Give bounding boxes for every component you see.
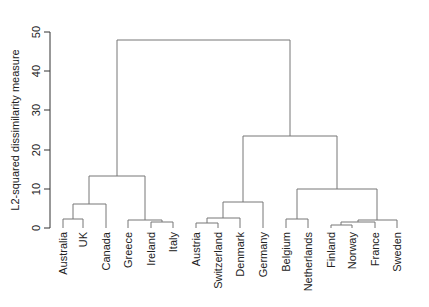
leaf-label-ireland: Ireland [145,232,157,266]
y-tick-20: 20 [30,144,42,156]
y-tick-30: 30 [30,104,42,116]
dendrogram-chart: 0 10 20 30 40 50 L2-squared dissimilarit… [0,0,429,307]
y-tick-0: 0 [30,225,42,231]
y-tick-10: 10 [30,183,42,195]
leaf-label-finland: Finland [325,232,337,268]
leaf-label-greece: Greece [122,232,134,268]
leaf-label-denmark: Denmark [234,232,246,277]
leaf-label-canada: Canada [100,231,112,270]
leaf-label-france: France [369,232,381,266]
leaf-label-austria: Austria [190,231,202,266]
leaf-label-switzerland: Switzerland [212,232,224,289]
leaf-label-australia: Australia [57,231,69,275]
leaf-label-belgium: Belgium [280,232,292,272]
leaf-label-sweden: Sweden [391,232,403,272]
y-axis-label: L2-squared dissimilarity measure [9,49,21,210]
leaf-label-norway: Norway [346,232,358,270]
leaf-label-italy: Italy [167,232,179,253]
leaf-label-germany: Germany [257,232,269,278]
y-tick-50: 50 [30,26,42,38]
leaf-label-uk: UK [77,231,89,247]
leaf-label-netherlands: Netherlands [302,232,314,292]
y-tick-40: 40 [30,65,42,77]
